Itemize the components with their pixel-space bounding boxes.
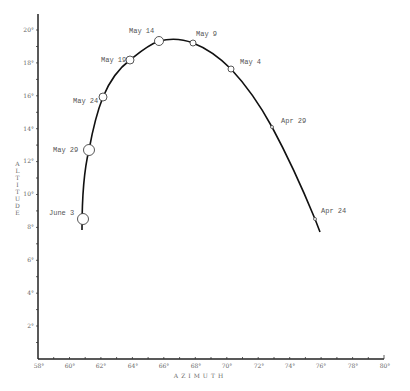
x-axis-tick-labels: 58° 60° 62° 64° 66° 68° 70° 72° 74° 76° … bbox=[34, 362, 391, 369]
label-may-29: May 29 bbox=[53, 146, 78, 154]
x-tick-66: 66° bbox=[159, 362, 170, 369]
label-may-4: May 4 bbox=[240, 58, 261, 66]
x-tick-62: 62° bbox=[96, 362, 107, 369]
point-may-4 bbox=[228, 66, 234, 72]
y-tick-14: 14° bbox=[23, 125, 34, 132]
point-apr-24 bbox=[314, 218, 317, 221]
y-axis-tick-labels: 2° 4° 6° 8° 10° 12° 14° 16° 18° 20° bbox=[23, 26, 34, 329]
label-apr-24: Apr 24 bbox=[321, 207, 346, 215]
label-june-3: June 3 bbox=[49, 209, 74, 217]
label-may-14: May 14 bbox=[129, 27, 154, 35]
svg-text:T: T bbox=[15, 188, 22, 195]
y-tick-16: 16° bbox=[23, 92, 34, 99]
svg-text:T: T bbox=[15, 174, 22, 181]
label-may-19: May 19 bbox=[101, 56, 126, 64]
x-tick-70: 70° bbox=[222, 362, 233, 369]
x-tick-80: 80° bbox=[380, 362, 391, 369]
label-may-9: May 9 bbox=[196, 30, 217, 38]
x-tick-76: 76° bbox=[316, 362, 327, 369]
y-tick-2: 2° bbox=[27, 322, 34, 329]
label-may-24: May 24 bbox=[73, 97, 98, 105]
svg-text:A: A bbox=[14, 160, 22, 167]
x-tick-60: 60° bbox=[65, 362, 76, 369]
svg-text:U: U bbox=[15, 195, 23, 202]
point-may-9 bbox=[190, 40, 196, 46]
x-tick-78: 78° bbox=[348, 362, 359, 369]
y-tick-20: 20° bbox=[23, 26, 34, 33]
point-may-24 bbox=[99, 93, 107, 101]
y-tick-10: 10° bbox=[23, 190, 34, 197]
x-tick-68: 68° bbox=[191, 362, 202, 369]
x-axis-title: AZIMUTH bbox=[173, 372, 226, 379]
svg-text:L: L bbox=[16, 167, 23, 174]
y-tick-8: 8° bbox=[27, 223, 34, 230]
y-axis-title: A L T I T U D E bbox=[14, 160, 23, 216]
x-tick-58: 58° bbox=[34, 362, 45, 369]
y-tick-18: 18° bbox=[23, 59, 34, 66]
y-tick-12: 12° bbox=[23, 157, 34, 164]
svg-text:D: D bbox=[15, 202, 23, 209]
point-may-19 bbox=[126, 56, 134, 64]
point-may-29 bbox=[84, 145, 95, 156]
x-tick-64: 64° bbox=[128, 362, 139, 369]
x-tick-72: 72° bbox=[254, 362, 265, 369]
svg-text:E: E bbox=[15, 209, 22, 216]
y-tick-4: 4° bbox=[27, 289, 34, 296]
sun-path-curve bbox=[82, 39, 320, 232]
svg-text:I: I bbox=[16, 181, 21, 188]
label-apr-29: Apr 29 bbox=[281, 117, 306, 125]
altitude-azimuth-chart: 2° 4° 6° 8° 10° 12° 14° 16° 18° 20° bbox=[0, 0, 410, 391]
y-tick-6: 6° bbox=[27, 256, 34, 263]
x-tick-74: 74° bbox=[285, 362, 296, 369]
point-june-3 bbox=[78, 214, 89, 225]
point-may-14 bbox=[155, 37, 164, 46]
point-apr-29 bbox=[271, 126, 274, 129]
